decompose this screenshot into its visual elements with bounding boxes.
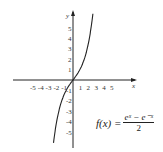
x-tick-label: -5 [30, 84, 36, 92]
x-tick-label: 3 [94, 84, 98, 92]
y-tick-label: 1 [68, 66, 72, 74]
y-tick-label: -4 [66, 118, 72, 126]
y-tick-label: -2 [66, 97, 72, 105]
x-tick-label: -2 [53, 84, 59, 92]
x-tick-labels: -5-4-3-2-112345 [30, 84, 114, 92]
x-tick-label: 5 [110, 84, 114, 92]
y-tick-label: 2 [68, 56, 72, 64]
x-tick-label: 1 [79, 84, 83, 92]
y-tick-label: -5 [66, 129, 72, 137]
x-tick-label: -4 [38, 84, 44, 92]
formula-numerator: eˣ − e⁻ˣ [123, 112, 154, 123]
y-tick-label: 5 [68, 25, 72, 33]
formula-lhs: f(x) = [96, 117, 121, 129]
x-axis-label: x [131, 82, 136, 90]
x-tick-label: -3 [46, 84, 52, 92]
y-axis-arrow-icon [71, 10, 75, 16]
y-axis-label: y [65, 12, 70, 20]
y-tick-label: 3 [68, 45, 72, 53]
x-tick-label: 2 [87, 84, 91, 92]
function-formula: f(x) = eˣ − e⁻ˣ 2 [96, 112, 154, 134]
formula-fraction: eˣ − e⁻ˣ 2 [123, 112, 154, 134]
x-tick-label: 4 [102, 84, 106, 92]
y-tick-label: 4 [68, 35, 72, 43]
y-tick-label: -3 [66, 108, 72, 116]
formula-denominator: 2 [137, 123, 142, 134]
